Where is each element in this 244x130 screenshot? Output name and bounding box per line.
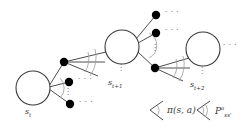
state-label-sub: t+2 xyxy=(194,85,204,91)
state-label-s-t2: st+2 xyxy=(190,81,204,91)
action-node-a3 xyxy=(66,100,74,108)
policy-arc-1 xyxy=(60,78,64,98)
legend-policy-bracket xyxy=(150,101,163,120)
action-node-b1 xyxy=(152,11,160,19)
state-label-sub: t+1 xyxy=(112,83,122,89)
transition-arc-a1-outer xyxy=(90,49,96,76)
state-circle-s-t2 xyxy=(186,32,220,66)
legend-transition-bracket xyxy=(197,101,210,120)
policy-arc-icon xyxy=(157,105,159,116)
state-label-s-t1: st+1 xyxy=(108,79,122,89)
transition-arc-icon-outer xyxy=(205,104,207,117)
state-circle-s-t1 xyxy=(105,30,139,64)
ellipsis-vertical: ··· xyxy=(120,64,122,74)
legend-label-policy: π(s, a) xyxy=(167,106,196,115)
ellipsis-horizontal: · · · xyxy=(78,76,92,83)
transition-arc-fan-a1 xyxy=(85,49,96,76)
ellipsis-horizontal: · · · xyxy=(165,27,179,34)
policy-arc-fan-s-t xyxy=(60,78,64,98)
edges-from-action-a1 xyxy=(64,52,106,76)
state-label-s-t: st xyxy=(25,108,31,118)
ellipsis-horizontal: · · · xyxy=(165,9,179,16)
state-label-sub: t xyxy=(29,112,31,118)
state-circles xyxy=(16,30,220,105)
legend-transition-sub: ss' xyxy=(224,112,231,118)
figure-canvas: st st+1 st+2 · · · · · · · · · · · · · ·… xyxy=(0,0,244,130)
state-circle-s-t xyxy=(16,71,50,105)
action-node-a1 xyxy=(60,58,68,66)
edge-a1-branch-low xyxy=(64,62,98,76)
legend-transition-sup: a xyxy=(221,105,224,111)
ellipsis-vertical: ··· xyxy=(67,88,69,98)
ellipsis-vertical: ··· xyxy=(154,44,156,54)
legend-label-transition: Pass' xyxy=(215,106,232,118)
edges-from-state-s-t1 xyxy=(136,15,156,68)
edge-b3-branch-low xyxy=(155,68,183,81)
edges-from-action-b3 xyxy=(155,58,190,81)
ellipsis-horizontal: · · · xyxy=(79,99,93,106)
angle-bracket-icon xyxy=(150,101,163,120)
action-node-b2 xyxy=(152,29,160,37)
edge-st-to-a1 xyxy=(49,62,64,86)
edge-a1-to-st1 xyxy=(64,52,106,62)
action-node-b3 xyxy=(151,64,159,72)
ellipsis-vertical: ··· xyxy=(201,67,203,77)
ellipsis-horizontal: · · · xyxy=(223,42,237,49)
